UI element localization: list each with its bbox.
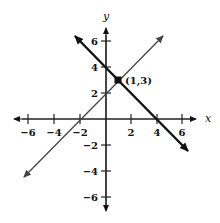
intersection-label: (1,3) <box>125 75 152 87</box>
x-tick-label: 6 <box>179 127 186 138</box>
y-tick-label: 6 <box>91 36 98 47</box>
y-axis-label: y <box>102 10 110 23</box>
x-tick-labels: −6 −4 −2 2 4 6 <box>20 127 185 138</box>
intersection-point-marker <box>115 77 122 84</box>
y-tick-label: 4 <box>91 62 98 73</box>
y-tick-label: −4 <box>83 166 98 177</box>
x-tick-label: −6 <box>20 127 35 138</box>
y-tick-label: −6 <box>83 192 98 203</box>
x-tick-label: −4 <box>46 127 61 138</box>
x-axis-label: x <box>205 112 212 125</box>
y-tick-label: 2 <box>91 88 98 99</box>
x-tick-label: 4 <box>154 127 161 138</box>
coordinate-plane-chart: −6 −4 −2 2 4 6 6 4 2 −2 −4 −6 x y (1,3) <box>0 0 220 223</box>
x-tick-label: −2 <box>72 127 87 138</box>
y-tick-label: −2 <box>83 140 98 151</box>
line-y-equals-x-plus-2 <box>24 36 163 177</box>
x-tick-label: 2 <box>128 127 135 138</box>
